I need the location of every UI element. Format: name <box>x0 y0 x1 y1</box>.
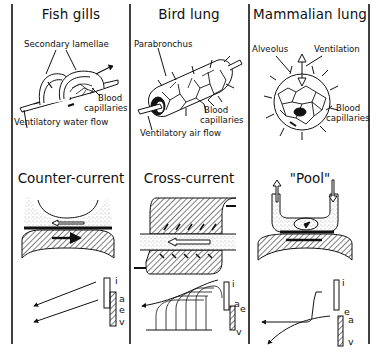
graph-label-a: a <box>119 293 125 304</box>
mammalian-lung-illustration <box>264 54 338 140</box>
mode-cross-current: Cross-current <box>130 170 248 186</box>
counter-current-scheme <box>22 196 116 326</box>
graph-label-e: e <box>240 303 246 314</box>
mode-pool: "Pool" <box>251 170 369 186</box>
pool-scheme <box>258 180 352 346</box>
label-capillaries: capillaries <box>326 114 370 124</box>
cross-current-scheme <box>134 198 236 330</box>
label-ventilation: Ventilation <box>314 45 360 55</box>
column-title-mammalian-lung: Mammalian lung <box>251 6 369 22</box>
label-alveolus: Alveolus <box>252 45 288 55</box>
gas-exchange-diagram: Fish gills Bird lung Mammalian lung Seco… <box>0 0 377 355</box>
label-ventilatory-water-flow: Ventilatory water flow <box>14 118 108 128</box>
label-capillaries: capillaries <box>84 104 128 114</box>
column-title-fish-gills: Fish gills <box>12 6 130 22</box>
label-secondary-lamellae: Secondary lamellae <box>24 40 109 50</box>
label-ventilatory-air-flow: Ventilatory air flow <box>140 129 221 139</box>
graph-label-i: i <box>342 277 345 288</box>
label-capillaries: capillaries <box>200 116 244 126</box>
graph-label-i: i <box>115 275 118 286</box>
label-parabronchus: Parabronchus <box>134 40 192 50</box>
graph-label-a: a <box>234 298 240 309</box>
graph-label-a: a <box>348 314 354 325</box>
graph-label-i: i <box>232 278 235 289</box>
graph-label-e: e <box>119 304 125 315</box>
graph-label-v: v <box>348 336 354 347</box>
mode-counter-current: Counter-current <box>12 170 130 186</box>
graph-label-v: v <box>236 326 242 337</box>
graph-label-v: v <box>119 316 125 327</box>
column-title-bird-lung: Bird lung <box>130 6 248 22</box>
